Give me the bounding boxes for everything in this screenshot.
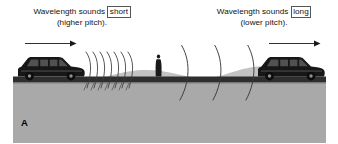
- caption-right-prefix: Wavelength sounds: [217, 7, 289, 16]
- panel-label: A: [21, 117, 28, 128]
- caption-left-prefix: Wavelength sounds: [33, 7, 105, 16]
- caption-right-boxed-word: long: [291, 6, 312, 18]
- caption-left-boxed-word: short: [107, 6, 130, 18]
- right-direction-arrow: [269, 41, 321, 47]
- left-direction-arrow: [25, 41, 77, 47]
- caption-right-line2: (lower pitch).: [196, 18, 332, 29]
- caption-left: Wavelength sounds short (higher pitch).: [14, 6, 150, 28]
- caption-right: Wavelength sounds long (lower pitch).: [196, 6, 332, 28]
- caption-left-line2: (higher pitch).: [14, 18, 150, 29]
- doppler-effect-figure: Wavelength sounds short (higher pitch). …: [0, 0, 338, 144]
